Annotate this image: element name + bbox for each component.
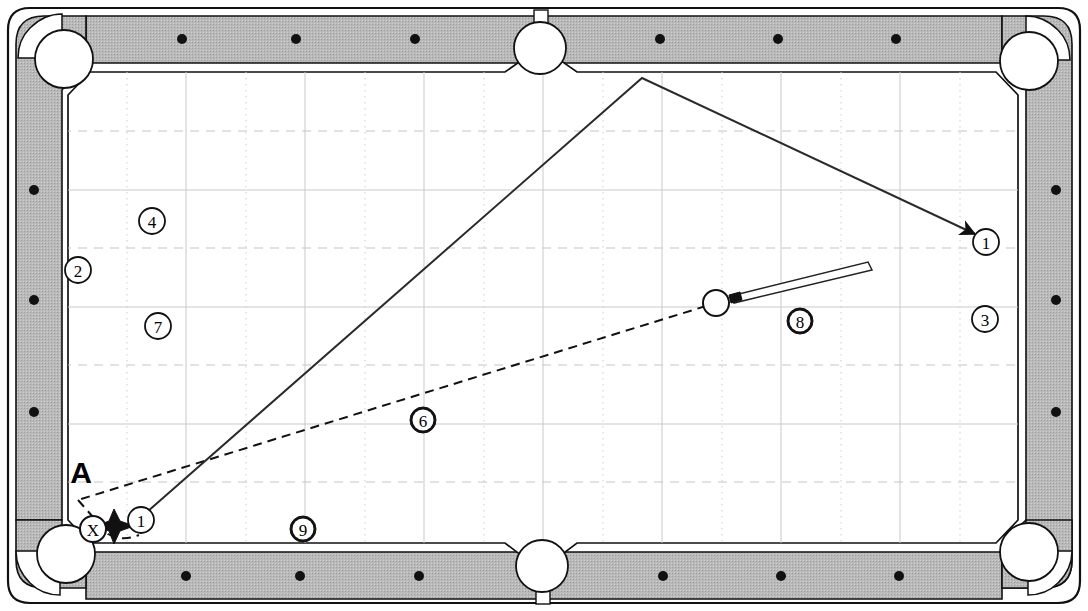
ball-6: 6 [410,407,436,433]
ball-2-label: 2 [74,262,83,281]
pocket-top-left [35,30,93,88]
diamond-top-5 [773,34,783,44]
ball-6-label: 6 [419,412,428,431]
ball-1-object-label: 1 [137,512,146,531]
ball-3-label: 3 [981,311,990,330]
ball-7-label: 7 [154,318,163,337]
ball-8-label: 8 [796,313,805,332]
diamond-bottom-1 [181,571,191,581]
diamond-bottom-3 [414,571,424,581]
diamond-right-3 [1051,407,1061,417]
diamond-top-1 [177,34,187,44]
cue-ball [703,290,729,316]
ball-2: 2 [65,257,91,283]
billiards-diagram-stage: 2 4 7 6 9 [0,0,1088,611]
ball-9-label: 9 [299,521,308,540]
billiards-table-svg: 2 4 7 6 9 [0,0,1088,611]
diamond-right-1 [1051,185,1061,195]
pocket-bottom-side [516,540,568,592]
ball-1-target-label: 1 [982,234,991,253]
diamond-bottom-2 [295,571,305,581]
diamond-top-6 [891,34,901,44]
ball-x-cue-position: X [80,516,106,542]
pocket-top-right [1000,32,1058,90]
ball-4: 4 [139,208,165,234]
ball-8: 8 [787,308,813,334]
diamond-right-2 [1051,295,1061,305]
diamond-left-1 [29,185,39,195]
pocket-bottom-right [1000,523,1058,581]
diamond-left-3 [29,407,39,417]
ball-7: 7 [145,313,171,339]
ball-9: 9 [290,516,316,542]
diamond-top-2 [291,34,301,44]
ball-1-target: 1 [973,229,999,255]
ball-1-object: 1 [128,507,154,533]
diamond-bottom-6 [894,571,904,581]
ball-x-label: X [87,521,99,540]
pocket-top-side [514,22,566,74]
diamond-left-2 [29,295,39,305]
diamond-top-3 [410,34,420,44]
position-label-a: A [70,456,92,489]
diamond-bottom-4 [658,571,668,581]
diamond-top-4 [655,34,665,44]
ball-3: 3 [972,306,998,332]
diamond-bottom-5 [776,571,786,581]
ball-4-label: 4 [148,213,157,232]
